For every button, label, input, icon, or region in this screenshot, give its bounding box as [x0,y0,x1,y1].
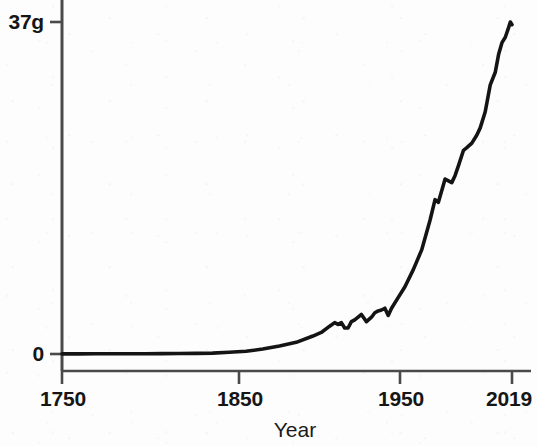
chart-plot-area [0,0,538,446]
x-axis-title: Year [274,418,316,442]
y-axis-label-min: 0 [0,342,44,366]
co2-emissions-line [62,22,512,354]
x-axis-label-1850: 1850 [217,387,263,411]
y-axis-label-max: 37g [0,10,44,34]
x-axis-label-2019: 2019 [486,387,532,411]
x-axis-label-1750: 1750 [40,387,86,411]
x-axis-label-1950: 1950 [378,387,424,411]
chart-figure: 37g 0 1750 1850 1950 2019 Year [0,0,538,446]
